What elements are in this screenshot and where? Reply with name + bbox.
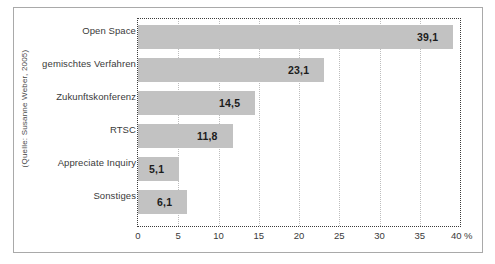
bar-value-zukunftskonferenz: 14,5: [219, 91, 240, 115]
tick-label-20: 20: [294, 230, 305, 241]
category-label-sonstiges: Sonstiges: [21, 190, 136, 201]
category-axis: Open Space gemischtes Verfahren Zukunfts…: [21, 20, 136, 225]
bar-open-space[interactable]: [138, 25, 453, 49]
tick-label-10: 10: [213, 230, 224, 241]
gridline-20: [299, 19, 300, 226]
tick-label-40-percent: 40 %: [451, 230, 473, 241]
category-label-rtsc: RTSC: [21, 124, 136, 135]
gridline-30: [380, 19, 381, 226]
bar-rtsc[interactable]: [138, 124, 233, 148]
value-axis: 0 5 10 15 20 25 30 35 40 %: [137, 230, 477, 246]
category-label-zukunftskonferenz: Zukunftskonferenz: [21, 91, 136, 102]
bar-value-appreciate-inquiry: 5,1: [149, 157, 164, 181]
bar-value-open-space: 39,1: [417, 25, 438, 49]
tick-label-15: 15: [254, 230, 265, 241]
gridline-10: [219, 19, 220, 226]
tick-label-30: 30: [374, 230, 385, 241]
tick-label-5: 5: [176, 230, 181, 241]
gridline-35: [420, 19, 421, 226]
category-label-gemischtes-verfahren: gemischtes Verfahren: [21, 58, 136, 69]
bar-value-rtsc: 11,8: [197, 124, 218, 148]
category-label-open-space: Open Space: [21, 25, 136, 36]
gridline-25: [339, 19, 340, 226]
gridline-15: [259, 19, 260, 226]
bar-value-gemischtes-verfahren: 23,1: [288, 58, 309, 82]
category-label-appreciate-inquiry: Appreciate Inquiry: [21, 157, 136, 168]
tick-label-25: 25: [334, 230, 345, 241]
bar-value-sonstiges: 6,1: [157, 190, 172, 214]
tick-label-35: 35: [415, 230, 426, 241]
plot-area: 39,1 23,1 14,5 11,8 5,1 6,1: [137, 18, 461, 227]
tick-label-0: 0: [135, 230, 140, 241]
bar-chart: Open Space gemischtes Verfahren Zukunfts…: [13, 7, 483, 253]
